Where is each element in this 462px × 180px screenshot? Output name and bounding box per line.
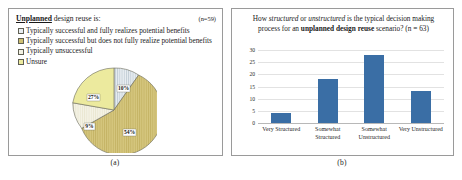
legend-item-label: Typically successful but does not fully … [26, 36, 212, 46]
bar-title-part-3: or [299, 14, 309, 23]
bar-title-part-7: scenario? (n = 63) [374, 24, 429, 33]
bar-very-structured[interactable] [271, 113, 291, 123]
pie-chart-panel: Unplanned design reuse is: (n=59) Typica… [8, 8, 223, 156]
bar-series [258, 50, 444, 123]
x-axis-line: 0 [258, 123, 444, 124]
bar-title-emphasis: unplanned design reuse [301, 24, 374, 33]
pie-slices [73, 68, 157, 153]
pie-title-rest: design reuse is: [52, 14, 101, 23]
bar-slot [258, 50, 305, 123]
legend-item: Typically successful and fully realizes … [18, 26, 223, 36]
legend-swatch-icon [18, 59, 24, 65]
legend-item-label: Typically successful and fully realizes … [26, 26, 190, 36]
pie-title-emphasis: Unplanned [16, 14, 52, 23]
legend-item: Typically unsuccessful [18, 46, 223, 56]
pie-value-label: 27% [88, 94, 100, 100]
bar-chart-title: How structured or unstructured is the ty… [244, 14, 443, 35]
pie-chart-title: Unplanned design reuse is: [16, 14, 101, 23]
bar-very-unstructured[interactable] [411, 91, 431, 123]
x-label-line-1: Somewhat [362, 126, 387, 132]
y-axis-tick-label: 0 [252, 120, 255, 126]
pie-chart-header: Unplanned design reuse is: (n=59) [16, 14, 216, 23]
x-axis-labels: Very Structured SomewhatStructured Somew… [258, 126, 444, 141]
bar-slot [351, 50, 398, 123]
legend-swatch-icon [18, 49, 24, 55]
bar-chart-plot-area: 30 25 20 15 10 5 0 [258, 50, 444, 124]
panel-b-caption: (b) [312, 158, 372, 167]
y-axis-tick-label: 15 [249, 84, 255, 90]
bar-chart-panel: How structured or unstructured is the ty… [231, 8, 454, 156]
y-axis-tick-label: 5 [252, 108, 255, 114]
bar-slot [305, 50, 352, 123]
panel-a-caption: (a) [85, 158, 145, 167]
y-axis-tick-label: 25 [249, 59, 255, 65]
pie-value-label: 54% [124, 129, 136, 135]
legend-item-label: Unsure [26, 57, 47, 67]
legend-swatch-icon [18, 38, 24, 44]
figure-container: Unplanned design reuse is: (n=59) Typica… [0, 0, 462, 180]
x-axis-label-very-unstructured: Very Unstructured [398, 126, 445, 141]
pie-chart-graphic: 10% 54% 9% 27% [71, 67, 157, 153]
x-axis-label-somewhat-structured: SomewhatStructured [305, 126, 352, 141]
x-label-line-2: Unstructured [359, 134, 390, 140]
pie-value-label: 9% [85, 123, 94, 129]
bar-somewhat-unstructured[interactable] [364, 55, 384, 123]
legend-item: Typically successful but does not fully … [18, 36, 223, 46]
bar-somewhat-structured[interactable] [318, 79, 338, 123]
legend-item-label: Typically unsuccessful [26, 46, 93, 56]
x-axis-label-somewhat-unstructured: SomewhatUnstructured [351, 126, 398, 141]
y-axis-tick-label: 10 [249, 96, 255, 102]
y-axis-tick-label: 20 [249, 71, 255, 77]
pie-chart-legend: Typically successful and fully realizes … [18, 26, 223, 67]
x-axis-label-very-structured: Very Structured [258, 126, 305, 141]
pie-value-label: 10% [118, 85, 130, 91]
bar-title-part-1: How [253, 14, 269, 23]
x-label-line-2: Structured [315, 134, 340, 140]
bar-title-unstructured: unstructured [308, 14, 345, 23]
pie-svg: 10% 54% 9% 27% [71, 67, 157, 153]
legend-swatch-icon [18, 28, 24, 34]
bar-slot [398, 50, 445, 123]
y-axis-tick-label: 30 [249, 47, 255, 53]
pie-sample-size: (n=59) [199, 15, 216, 22]
bar-title-structured: structured [269, 14, 299, 23]
pie-slice-unsure [73, 68, 114, 110]
x-label-line-1: Somewhat [315, 126, 340, 132]
legend-item: Unsure [18, 57, 223, 67]
